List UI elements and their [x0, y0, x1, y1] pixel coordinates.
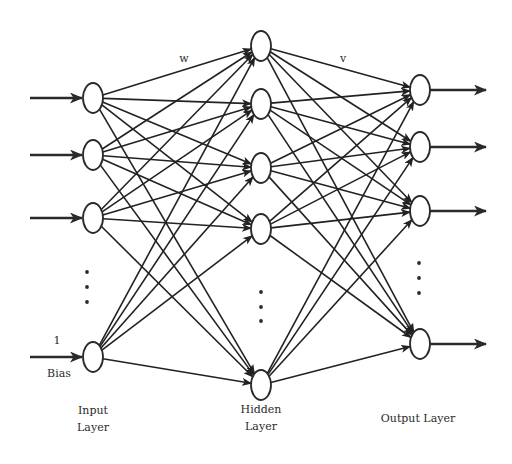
hidden-ellipsis-dot	[259, 319, 263, 323]
input-ellipsis-dot	[85, 300, 89, 304]
input-neuron-node	[83, 140, 103, 170]
weight-label-w: w	[179, 52, 189, 65]
weight-connection-w	[101, 55, 252, 210]
weight-connection-v	[268, 115, 413, 334]
hidden-neuron-node	[251, 89, 271, 119]
output-neuron-node	[410, 132, 430, 162]
input-neuron-node	[83, 83, 103, 113]
input-to-hidden-connections	[99, 49, 254, 383]
input-neuron-node	[83, 342, 103, 372]
input-ellipsis-dot	[85, 270, 89, 274]
weight-connection-v	[271, 152, 411, 224]
hidden-neuron-node	[251, 153, 271, 183]
output-neuron-node	[410, 196, 430, 226]
weight-connection-w	[102, 236, 252, 350]
weight-connection-w	[103, 219, 251, 229]
input-neuron-node	[83, 203, 103, 233]
weight-connection-v	[271, 212, 410, 228]
output-neuron-node	[410, 75, 430, 105]
hidden-neuron-node	[251, 370, 271, 400]
output-ellipsis-dot	[417, 291, 421, 295]
weight-connection-w	[103, 107, 251, 152]
network-canvas: w v 1 Bias Input Layer Hidden Layer Outp…	[0, 0, 512, 464]
input-ellipsis-dot	[85, 285, 89, 289]
hidden-neuron-node	[251, 31, 271, 61]
weight-connection-v	[271, 91, 410, 103]
weight-connection-v	[267, 102, 413, 374]
weight-connection-w	[102, 52, 252, 149]
bias-label: Bias	[47, 367, 71, 380]
hidden-layer-label-line2: Layer	[245, 420, 278, 433]
hidden-neuron-node	[251, 214, 271, 244]
weight-connection-v	[269, 177, 412, 335]
bias-value-label: 1	[54, 334, 61, 347]
weight-label-v: v	[339, 52, 347, 65]
weight-connection-w	[103, 171, 251, 215]
hidden-to-output-connections	[267, 49, 414, 383]
weight-connection-v	[267, 58, 414, 333]
hidden-ellipsis-dot	[259, 290, 263, 294]
hidden-ellipsis-dot	[259, 305, 263, 309]
output-ellipsis-dot	[417, 276, 421, 280]
weight-connection-w	[103, 49, 251, 95]
input-layer-label-line1: Input	[78, 404, 109, 417]
neural-network-diagram: w v 1 Bias Input Layer Hidden Layer Outp…	[0, 0, 512, 464]
weight-connection-w	[102, 110, 252, 212]
weight-connection-w	[103, 359, 251, 384]
weight-connection-w	[101, 226, 252, 376]
weight-connection-v	[271, 95, 411, 164]
input-layer-label-line2: Layer	[77, 421, 110, 434]
output-neuron-node	[410, 329, 430, 359]
hidden-layer-label-line1: Hidden	[241, 403, 282, 416]
output-ellipsis-dot	[417, 261, 421, 265]
output-layer-label: Output Layer	[381, 412, 456, 425]
weight-connection-w	[103, 159, 252, 225]
